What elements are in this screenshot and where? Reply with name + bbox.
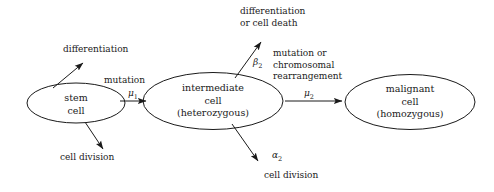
mutation-or-chrom-line2: chromosomal [273, 60, 342, 72]
mu1-subscript: 1 [134, 93, 138, 101]
arrow-intermediate-to-cell-division [232, 124, 258, 161]
mu1-rate-label: μ1 [128, 88, 138, 101]
differentiation-or-cell-death-label: differentiation or cell death [240, 6, 305, 29]
differentiation-or-cell-death-line1: differentiation [240, 6, 305, 18]
mutation-or-chromosomal-rearrangement-label: mutation or chromosomal rearrangement [273, 48, 342, 83]
mu2-subscript: 2 [310, 93, 314, 101]
alpha2-rate-label: α2 [272, 150, 282, 163]
stem-cell-ellipse [27, 83, 125, 123]
alpha2-subscript: 2 [278, 155, 282, 163]
mutation-label: mutation [104, 75, 145, 87]
arrow-stem-to-differentiation [53, 63, 83, 88]
differentiation-or-cell-death-line2: or cell death [240, 18, 305, 30]
malignant-cell-ellipse [345, 75, 475, 130]
cell-division-right-label: cell division [264, 170, 318, 182]
mu2-rate-label: μ2 [304, 88, 314, 101]
arrow-stem-to-cell-division [85, 122, 103, 149]
cancer-progression-diagram: stem cell intermediate cell (heterozygou… [0, 0, 494, 192]
intermediate-cell-ellipse [143, 73, 283, 130]
cell-division-left-label: cell division [60, 152, 114, 164]
mutation-or-chrom-line1: mutation or [273, 48, 342, 60]
differentiation-label: differentiation [63, 44, 128, 56]
beta2-rate-label: β2 [253, 57, 262, 70]
mutation-or-chrom-line3: rearrangement [273, 71, 342, 83]
beta2-subscript: 2 [258, 62, 262, 70]
